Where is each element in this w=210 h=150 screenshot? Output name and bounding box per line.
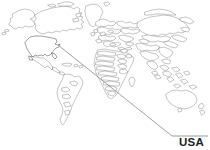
region-alaska	[2, 9, 35, 35]
region-asia	[136, 9, 194, 88]
region-canada	[34, 2, 84, 34]
region-south-america	[57, 74, 83, 125]
region-australia-oceania	[166, 85, 205, 115]
world-map-figure: USA	[0, 0, 210, 150]
region-mexico-central-america	[31, 57, 83, 75]
region-united-states-highlighted	[25, 36, 60, 60]
region-africa	[94, 49, 135, 99]
world-map-svg	[0, 0, 210, 150]
country-label-usa: USA	[175, 136, 208, 149]
region-europe	[91, 19, 140, 50]
